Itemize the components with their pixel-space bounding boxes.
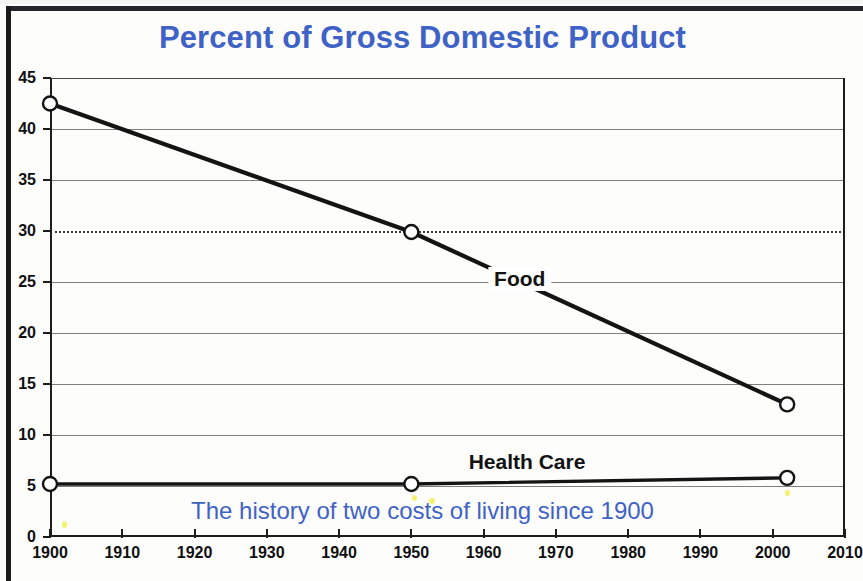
y-tick-label-40: 40 [18,120,36,138]
x-tick-label-1900: 1900 [32,544,68,562]
x-tick-label-1910: 1910 [104,544,140,562]
scan-border-left [6,6,11,581]
data-point-marker [43,477,57,491]
y-tick-label-30: 30 [18,222,36,240]
y-tick-label-45: 45 [18,69,36,87]
data-point-marker [404,225,418,239]
x-tick-label-2010: 2010 [827,544,863,562]
x-tick-label-1960: 1960 [466,544,502,562]
scan-artifact-dot [429,498,435,504]
x-tick-label-2000: 2000 [755,544,791,562]
chart-title: Percent of Gross Domestic Product [0,20,845,56]
x-tick-label-1930: 1930 [249,544,285,562]
y-tick-label-10: 10 [18,426,36,444]
scan-artifact-dot [785,490,790,496]
x-tick-label-1920: 1920 [177,544,213,562]
data-point-marker [780,471,794,485]
y-tick-label-20: 20 [18,324,36,342]
y-tick-label-25: 25 [18,273,36,291]
x-tick-label-1940: 1940 [321,544,357,562]
data-point-marker [780,397,794,411]
y-tick-label-5: 5 [27,477,36,495]
plot-area: 051015202530354045 190019101920193019401… [50,78,845,537]
data-point-marker [43,97,57,111]
data-point-marker [404,477,418,491]
series-label-health-care: Health Care [463,450,592,474]
scan-edge-top [0,0,863,4]
x-tick-label-1990: 1990 [683,544,719,562]
x-tick-label-1980: 1980 [610,544,646,562]
x-tick-label-1970: 1970 [538,544,574,562]
scan-border-top [6,6,863,11]
y-tick-label-15: 15 [18,375,36,393]
y-tick-label-35: 35 [18,171,36,189]
chart-subtitle: The history of two costs of living since… [0,497,845,525]
series-label-food: Food [488,267,551,291]
series-lines-svg [50,78,845,537]
scanned-chart-page: Percent of Gross Domestic Product 051015… [0,0,863,581]
series-line-food [50,104,787,405]
x-tick-label-1950: 1950 [394,544,430,562]
